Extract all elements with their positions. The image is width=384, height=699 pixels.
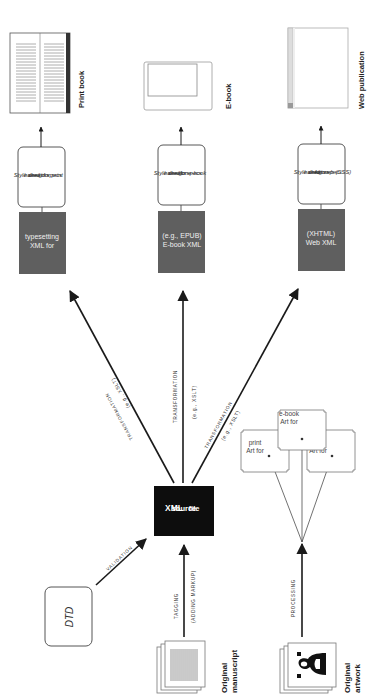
stylesheet-print-line4: for print: [43, 172, 63, 178]
manuscript-label-line1: Original: [220, 663, 229, 693]
ebook-label: E-book: [224, 83, 233, 109]
stylesheet-web-line4: for web (CSS): [315, 169, 351, 175]
manuscript-node: Original manuscript: [157, 641, 239, 693]
art-print-line1: Art for: [246, 447, 265, 454]
transformation-ebook-label: TRANSFORMATION: [173, 370, 178, 423]
stylesheet-ebook-line4: for e-book: [180, 170, 207, 176]
tagging-label: TAGGING: [174, 593, 179, 619]
transformation-edge-print: TRANSFORMATION (e.g., XSLT): [70, 291, 174, 483]
art-ebook-line2: e-book: [279, 410, 300, 417]
dtd-label: DTD: [64, 607, 75, 628]
web-xml-line1: Web XML: [306, 239, 337, 246]
ebook-xml-line1: E-book XML: [163, 241, 202, 248]
artwork-stack-icon: [280, 643, 336, 693]
output-print-row: XML for typesetting Style sheet based on…: [10, 33, 86, 274]
xml-source-node: XML source file: [154, 486, 214, 536]
print-book-label: Print book: [77, 70, 86, 108]
art-ebook-line1: Art for: [280, 418, 299, 425]
xml-typesetting-line2: typesetting: [25, 233, 59, 241]
processing-edge: PROCESSING: [291, 544, 302, 637]
xml-typesetting-line1: XML for: [30, 242, 55, 249]
source-line3: file: [189, 504, 200, 513]
manuscript-stack-icon: [157, 641, 205, 693]
artwork-label-line1: Original: [343, 663, 352, 693]
art-print-line2: print: [249, 439, 262, 447]
manuscript-label-line2: manuscript: [230, 650, 239, 693]
adding-markup-label: (ADDING MARKUP): [191, 570, 196, 623]
artwork-label-line2: artwork: [353, 664, 362, 693]
art-for-ebook-box: Art for e-book: [278, 410, 326, 450]
web-publication-label: Web publication: [357, 51, 366, 109]
output-ebook-row: E-book XML (e.g., EPUB) Style sheet base…: [144, 62, 233, 273]
dtd-node: DTD: [45, 587, 92, 646]
ebook-reader-icon: [144, 62, 212, 110]
publishing-workflow-diagram: DTD VALIDATION: [0, 0, 384, 699]
transformation-edge-ebook: TRANSFORMATION (e.g., XSLT): [173, 291, 197, 483]
print-book-icon: [10, 33, 70, 113]
transformation-ebook-sub: (e.g., XSLT): [191, 385, 197, 419]
web-page-icon: [288, 28, 348, 108]
ebook-xml-line2: (e.g., EPUB): [162, 232, 201, 240]
web-xml-line2: (XHTML): [307, 230, 335, 238]
portrait-icon: [296, 651, 328, 679]
diagram-stage: DTD VALIDATION: [0, 0, 384, 699]
tagging-edge: TAGGING (ADDING MARKUP): [174, 545, 196, 637]
artwork-node: Original artwork: [280, 643, 362, 693]
validation-label: VALIDATION: [105, 545, 133, 572]
processing-label: PROCESSING: [291, 579, 296, 617]
validation-edge: VALIDATION: [96, 539, 146, 585]
output-web-row: Web XML (XHTML) Style sheet based on des…: [288, 28, 366, 271]
